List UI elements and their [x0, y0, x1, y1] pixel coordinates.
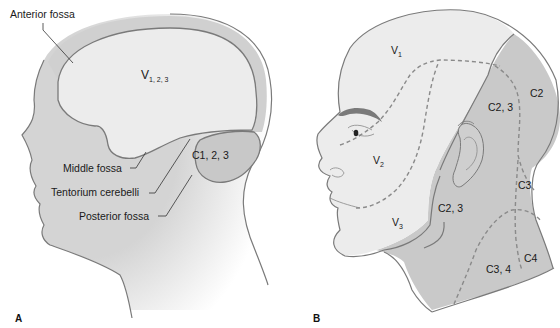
label-c34: C3, 4	[486, 263, 511, 275]
label-tentorium-cerebelli: Tentorium cerebelli	[51, 186, 139, 198]
label-c123: C1, 2, 3	[192, 149, 229, 161]
panel-label-a: A	[15, 313, 22, 324]
panel-b: V1 V2 V3 C2 C2, 3 C2, 3 C3 C3, 4 C4 B	[313, 10, 560, 324]
panel-label-b: B	[313, 313, 320, 324]
label-anterior-fossa: Anterior fossa	[10, 8, 75, 20]
dermatome-figure: Anterior fossa Middle fossa Tentorium ce…	[0, 0, 560, 328]
label-c4: C4	[524, 252, 538, 264]
label-middle-fossa: Middle fossa	[63, 162, 122, 174]
label-c23-lower: C2, 3	[438, 202, 463, 214]
panel-a: Anterior fossa Middle fossa Tentorium ce…	[10, 8, 272, 324]
label-c2: C2	[530, 87, 544, 99]
label-c3: C3	[518, 179, 532, 191]
label-posterior-fossa: Posterior fossa	[79, 210, 149, 222]
label-c23-upper: C2, 3	[488, 101, 513, 113]
